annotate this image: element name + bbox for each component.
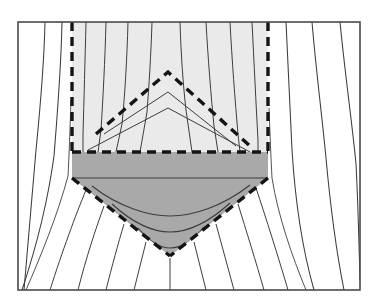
contour-figure xyxy=(0,0,385,308)
contour-plot-svg xyxy=(0,0,385,308)
upper-light-region xyxy=(72,22,268,152)
